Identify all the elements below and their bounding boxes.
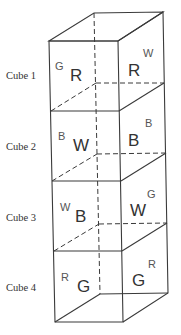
boundary-back-2 <box>97 153 166 154</box>
cube4-back-letter: R <box>148 258 156 270</box>
cube2-right-letter: B <box>128 131 139 150</box>
cube4-right-letter: G <box>132 271 145 290</box>
bottom-left-edge <box>55 294 100 322</box>
boundary-right-1 <box>119 83 164 111</box>
cube1-front-letter: R <box>70 66 82 85</box>
boundary-left-3 <box>54 224 99 251</box>
boundary-left-1 <box>51 83 96 111</box>
cube3-left-letter: W <box>60 201 71 213</box>
cube2-front-letter: W <box>73 136 89 155</box>
cube4-left-letter: R <box>61 271 69 283</box>
cube-4-label: Cube 4 <box>6 282 36 293</box>
cube1-left-letter: G <box>55 60 64 72</box>
cube-2-label: Cube 2 <box>6 141 36 152</box>
cube2-left-letter: B <box>58 130 65 142</box>
boundary-back-3 <box>99 223 167 224</box>
cube2-back-letter: B <box>145 117 152 129</box>
cube1-right-letter: R <box>128 61 140 80</box>
boundary-right-2 <box>121 153 166 181</box>
boundary-right-3 <box>122 223 167 251</box>
cube-3-label: Cube 3 <box>6 212 36 223</box>
cube4-front-letter: G <box>77 277 90 296</box>
cube3-back-letter: G <box>147 188 156 200</box>
cube-1-label: Cube 1 <box>6 70 36 81</box>
boundary-left-2 <box>52 154 97 181</box>
cube3-right-letter: W <box>130 201 146 220</box>
cube3-front-letter: B <box>75 207 86 226</box>
top-face <box>49 12 163 41</box>
bottom-back-edge <box>100 293 168 294</box>
cube1-back-letter: W <box>143 47 154 59</box>
